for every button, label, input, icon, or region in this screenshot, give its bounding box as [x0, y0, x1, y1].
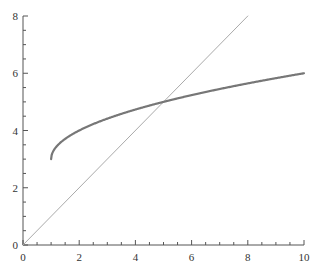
axes: 024681002468 [13, 10, 311, 263]
y-tick-label: 6 [13, 67, 19, 79]
y-tick-label: 4 [13, 125, 19, 137]
x-tick-label: 6 [189, 251, 195, 263]
x-tick-label: 4 [133, 251, 139, 263]
x-tick-label: 2 [76, 251, 82, 263]
x-tick-label: 8 [245, 251, 251, 263]
identity-line [23, 16, 248, 245]
x-tick-label: 0 [20, 251, 26, 263]
x-tick-label: 10 [299, 251, 311, 263]
y-tick-label: 0 [13, 239, 19, 251]
y-tick-label: 2 [13, 182, 19, 194]
series-layer [23, 16, 304, 245]
y-tick-label: 8 [13, 10, 19, 22]
sqrt-curve [51, 73, 304, 159]
chart: 024681002468 [0, 0, 322, 274]
